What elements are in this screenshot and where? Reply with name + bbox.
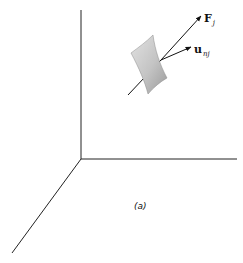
surface-patch bbox=[131, 35, 167, 94]
force-vector-label: Fj bbox=[204, 9, 215, 25]
diagram-figure: Fj unj (a) bbox=[0, 0, 243, 263]
diagonal-axis bbox=[12, 159, 81, 253]
unit-normal-arrow bbox=[161, 47, 191, 60]
figure-caption: (a) bbox=[134, 202, 147, 211]
force-symbol: F bbox=[204, 12, 212, 25]
force-subscript: j bbox=[213, 19, 215, 27]
normal-vector-label: unj bbox=[194, 40, 210, 56]
normal-symbol: u bbox=[194, 43, 202, 56]
normal-subscript: nj bbox=[203, 50, 210, 58]
